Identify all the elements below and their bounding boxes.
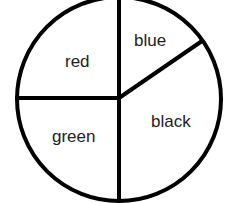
- slice-label-blue: blue: [134, 31, 166, 50]
- slice-label-green: green: [52, 127, 95, 146]
- slice-label-black: black: [151, 112, 191, 131]
- slice-label-red: red: [65, 52, 90, 71]
- pie-chart: blue red black green: [0, 0, 230, 203]
